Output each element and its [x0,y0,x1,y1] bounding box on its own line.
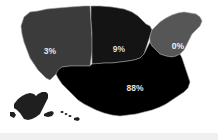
us-region-choropleth-figure: 3% 9% 0% 88% [0,0,218,140]
region-label-south: 88% [126,83,143,93]
region-label-midwest: 9% [113,44,126,54]
region-label-west: 3% [44,46,57,56]
region-label-northeast: 0% [172,41,185,51]
us-region-map[interactable]: 3% 9% 0% 88% [0,0,218,140]
bottom-edge-tint [0,133,218,140]
